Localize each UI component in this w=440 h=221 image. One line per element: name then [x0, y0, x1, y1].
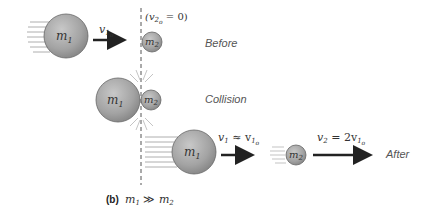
before-label: Before [205, 37, 237, 49]
after-stage: m1 v1 ≈ v1o m2 v2 = 2v1o After [145, 130, 411, 174]
caption-part-label: (b) [106, 194, 119, 205]
collision-diagram: m1 v1o (v2o = 0) m2 Before m1 m2 Collisi… [0, 0, 440, 221]
v1o-label: v1o [99, 23, 114, 38]
v1-approx-label: v1 ≈ v1o [218, 131, 260, 146]
collision-stage: m1 m2 Collision [96, 70, 247, 130]
v2-equals-label: v2 = 2v1o [317, 131, 366, 146]
motion-lines-m2-after [270, 147, 286, 163]
after-label: After [385, 148, 411, 160]
caption-relation: m1 ≫ m2 [125, 193, 174, 207]
collision-label: Collision [205, 93, 247, 105]
v2o-zero-note: (v2o = 0) [145, 11, 188, 25]
figure-caption: (b) m1 ≫ m2 [106, 193, 174, 207]
before-stage: m1 v1o (v2o = 0) m2 Before [27, 11, 237, 58]
